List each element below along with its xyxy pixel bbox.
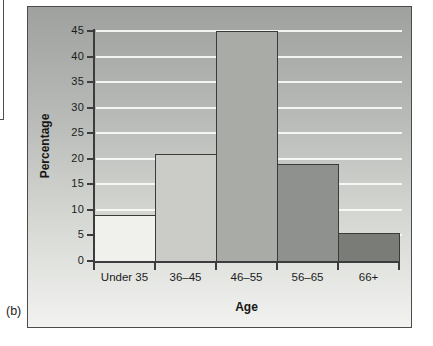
x-tick: [154, 262, 156, 270]
y-tick-label: 40: [54, 50, 84, 62]
y-tick: [87, 81, 94, 83]
y-tick-label: 20: [54, 152, 84, 164]
y-tick: [87, 234, 94, 236]
plot-area: 051015202530354045Under 3536–4546–5556–6…: [28, 7, 411, 327]
figure-panel-b: (b) 051015202530354045Under 3536–4546–55…: [0, 0, 433, 346]
y-tick: [87, 183, 94, 185]
x-tick: [215, 262, 217, 270]
y-axis-line: [93, 29, 95, 263]
y-tick: [87, 107, 94, 109]
bar-56-65: [277, 164, 339, 262]
y-tick-label: 10: [54, 203, 84, 215]
x-tick: [398, 262, 400, 270]
y-tick: [87, 56, 94, 58]
x-tick: [93, 262, 95, 270]
y-tick: [87, 209, 94, 211]
y-axis-title: Percentage: [38, 86, 52, 206]
x-tick: [337, 262, 339, 270]
bar-66plus: [338, 233, 400, 262]
x-axis-line: [93, 261, 400, 263]
y-tick-label: 15: [54, 177, 84, 189]
y-tick: [87, 30, 94, 32]
figure-a-frame-corner: [0, 0, 4, 120]
bar-36-45: [155, 154, 217, 262]
y-tick-label: 25: [54, 126, 84, 138]
y-tick: [87, 158, 94, 160]
x-axis-title: Age: [94, 300, 399, 314]
y-tick-label: 45: [54, 24, 84, 36]
bar-46-55: [216, 31, 278, 262]
x-tick-label: 66+: [327, 271, 411, 283]
y-tick: [87, 132, 94, 134]
y-tick-label: 5: [54, 228, 84, 240]
x-tick: [276, 262, 278, 270]
y-tick-label: 30: [54, 101, 84, 113]
bar-under-35: [94, 215, 156, 262]
y-tick-label: 0: [54, 254, 84, 266]
panel-label: (b): [6, 304, 21, 318]
chart-frame: 051015202530354045Under 3536–4546–5556–6…: [27, 6, 412, 328]
y-tick-label: 35: [54, 75, 84, 87]
